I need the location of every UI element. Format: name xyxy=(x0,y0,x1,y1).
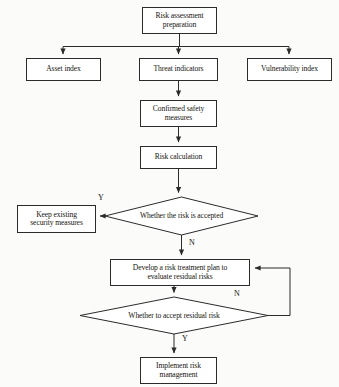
node-start[interactable] xyxy=(142,7,217,34)
node-confirmed-safety-measures[interactable] xyxy=(140,100,217,127)
node-whether-risk-accepted[interactable] xyxy=(105,197,259,236)
node-whether-accept-residual-risk[interactable] xyxy=(80,297,269,335)
flowchart-page: Risk assessment preparation Asset index … xyxy=(0,0,339,387)
edge-label-accepted-yes: Y xyxy=(98,193,104,202)
edge-label-residual-yes: Y xyxy=(182,334,188,343)
node-implement-risk-management[interactable] xyxy=(140,357,217,384)
node-asset-index[interactable] xyxy=(26,58,101,81)
node-risk-calculation[interactable] xyxy=(140,146,217,169)
node-threat-indicators[interactable] xyxy=(139,58,218,81)
edge-label-accepted-no: N xyxy=(189,238,195,247)
node-keep-existing-security-measures[interactable] xyxy=(17,205,96,233)
node-develop-risk-treatment-plan[interactable] xyxy=(110,259,250,286)
node-vulnerability-index[interactable] xyxy=(247,58,332,81)
